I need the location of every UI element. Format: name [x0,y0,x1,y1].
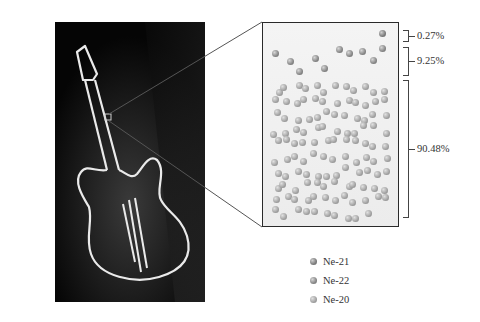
atom-ne-20 [320,153,327,160]
atom-ne-20 [271,159,278,166]
atom-ne-20 [300,129,307,136]
atom-ne-20 [281,115,288,122]
atom-ne-20 [341,112,348,119]
atom-ne-20 [320,183,327,190]
atom-ne-20 [319,123,326,130]
atom-ne-20 [383,112,390,119]
atom-ne-20 [279,181,286,188]
atom-ne-20 [382,143,389,150]
atom-ne-20 [323,173,330,180]
atom-ne-20 [284,156,291,163]
atom-ne-20 [303,171,310,178]
atom-ne-20 [292,187,299,194]
atom-ne-20 [311,139,318,146]
atom-ne-20 [291,196,298,203]
atom-ne-22 [296,68,303,75]
percent-ne20: 90.48% [417,143,449,154]
atom-ne-20 [302,85,309,92]
atom-ne-20 [322,194,329,201]
atom-ne-20 [374,171,381,178]
atom-ne-20 [362,197,369,204]
atom-ne-20 [365,210,372,217]
atom-ne-20 [362,102,369,109]
atom-ne-20 [334,128,341,135]
atom-ne-22 [312,55,319,62]
atom-ne-22 [336,46,343,53]
atom-ne-20 [282,173,289,180]
atom-ne-20 [383,130,390,137]
atom-ne-20 [304,179,311,186]
atom-ne-20 [280,84,287,91]
atom-ne-20 [341,192,348,199]
legend-item-ne20: Ne-20 [310,290,349,309]
atom-ne-20 [362,83,369,90]
atom-ne-20 [291,153,298,160]
atom-ne-20 [311,208,318,215]
atom-ne-20 [274,109,281,116]
atom-ne-20 [332,197,339,204]
atom-ne-20 [370,122,377,129]
atom-ne-20 [334,100,341,107]
atom-ne-20 [331,111,338,118]
atom-ne-20 [303,208,310,215]
atom-ne-20 [331,178,338,185]
legend-item-ne22: Ne-22 [310,271,349,290]
atom-ne-20 [314,82,321,89]
atom-ne-22 [272,50,279,57]
atom-ne-20 [363,154,370,161]
atom-ne-20 [384,155,391,162]
atom-ne-20 [352,99,359,106]
legend-item-ne21: Ne-21 [310,252,349,271]
atom-ne-22 [370,57,377,64]
atom-ne-20 [360,184,367,191]
atom-ne-22 [379,45,386,52]
atom-ne-22 [346,50,353,57]
atom-ne-20 [272,96,279,103]
atom-ne-20 [283,136,290,143]
atom-ne-20 [332,82,339,89]
atom-ne-20 [349,199,356,206]
atom-ne-20 [310,150,317,157]
atom-ne-20 [295,168,302,175]
atom-ne-20 [381,88,388,95]
atom-ne-20 [300,158,307,165]
atom-ne-20 [273,196,280,203]
atom-ne-20 [369,143,376,150]
atom-ne-20 [280,213,287,220]
atom-ne-20 [295,117,302,124]
ne22-ball-icon [310,277,317,284]
atom-ne-20 [369,111,376,118]
atom-ne-20 [354,115,361,122]
atom-ne-20 [331,212,338,219]
percent-ne22: 9.25% [417,55,444,66]
atom-ne-20 [381,96,388,103]
ne20-ball-icon [310,296,317,303]
atom-ne-20 [283,98,290,105]
atom-ne-21 [379,30,386,37]
atom-ne-20 [324,210,331,217]
atom-ne-20 [381,187,388,194]
atom-ne-20 [295,206,302,213]
atom-ne-20 [306,116,313,123]
atom-ne-20 [351,130,358,137]
atom-ne-20 [356,169,363,176]
ne21-ball-icon [310,258,317,265]
atom-ne-20 [299,139,306,146]
atom-ne-20 [364,167,371,174]
atom-ne-20 [314,114,321,121]
atom-ne-20 [370,158,377,165]
atom-ne-20 [300,96,307,103]
atom-ne-20 [372,98,379,105]
atom-ne-20 [319,98,326,105]
atom-ne-20 [291,140,298,147]
atom-ne-20 [342,164,349,171]
atom-ne-20 [343,136,350,143]
atom-ne-20 [312,95,319,102]
atom-ne-20 [371,185,378,192]
atom-ne-20 [349,181,356,188]
atom-ne-20 [352,215,359,222]
atom-ne-20 [353,159,360,166]
atom-ne-20 [343,83,350,90]
atom-zoom-box [262,22,399,227]
atom-ne-20 [272,206,279,213]
